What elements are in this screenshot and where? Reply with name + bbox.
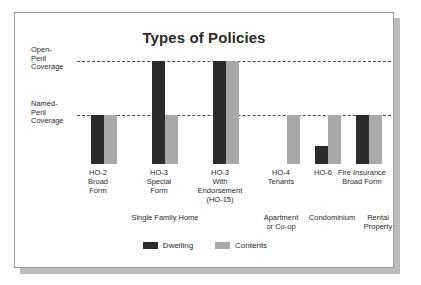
bar-dwelling-ho-3-endorsement bbox=[213, 61, 226, 164]
group-label-apartment-or-co-op-line2: or Co-op bbox=[252, 222, 310, 231]
chart-legend: Dwelling Contents bbox=[15, 241, 395, 250]
bar-contents-fire-insurance bbox=[369, 115, 382, 164]
category-label-ho-2-broad-form-line3: Form bbox=[73, 186, 123, 195]
category-label-ho-3-endorsement-line3: Endorsement bbox=[187, 186, 253, 195]
category-label-ho-3-special-form-line3: Form bbox=[134, 186, 184, 195]
legend-item-dwelling: Dwelling bbox=[143, 241, 193, 250]
chart-card: Types of Policies Open- Peril Coverage N… bbox=[14, 12, 394, 268]
group-label-rental-property-line1: Rental bbox=[354, 213, 402, 222]
category-label-ho-3-endorsement-line1: HO-3 bbox=[187, 168, 253, 177]
category-label-ho-2-broad-form-line1: HO-2 bbox=[73, 168, 123, 177]
category-label-ho-2-broad-form: HO-2BroadForm bbox=[73, 168, 123, 195]
legend-label-dwelling: Dwelling bbox=[163, 241, 193, 250]
legend-swatch-dwelling-icon bbox=[143, 242, 158, 249]
category-label-ho-3-special-form-line1: HO-3 bbox=[134, 168, 184, 177]
legend-swatch-contents-icon bbox=[215, 242, 230, 249]
category-label-ho-4-tenants-line2: Tenants bbox=[256, 177, 306, 186]
category-label-ho-3-endorsement-line4: (HO-15) bbox=[187, 195, 253, 204]
category-label-fire-insurance-line1: Fire Insurance bbox=[330, 168, 394, 177]
bar-dwelling-fire-insurance bbox=[356, 115, 369, 164]
bar-contents-ho-4-tenants bbox=[287, 115, 300, 164]
category-label-ho-3-special-form-line2: Special bbox=[134, 177, 184, 186]
category-label-fire-insurance: Fire InsuranceBroad Form bbox=[330, 168, 394, 186]
group-label-rental-property: RentalProperty bbox=[354, 213, 402, 231]
bars-layer bbox=[15, 13, 395, 269]
bar-contents-ho-6 bbox=[328, 115, 341, 164]
group-label-rental-property-line2: Property bbox=[354, 222, 402, 231]
bar-dwelling-ho-2-broad-form bbox=[91, 115, 104, 164]
bar-contents-ho-2-broad-form bbox=[104, 115, 117, 164]
category-label-ho-3-endorsement-line2: With bbox=[187, 177, 253, 186]
legend-item-contents: Contents bbox=[215, 241, 267, 250]
category-label-ho-3-endorsement: HO-3WithEndorsement(HO-15) bbox=[187, 168, 253, 204]
category-label-ho-2-broad-form-line2: Broad bbox=[73, 177, 123, 186]
bar-dwelling-ho-6 bbox=[315, 146, 328, 164]
category-label-fire-insurance-line2: Broad Form bbox=[330, 177, 394, 186]
legend-label-contents: Contents bbox=[235, 241, 267, 250]
plot-area: Open- Peril Coverage Named- Peril Covera… bbox=[15, 13, 395, 269]
category-label-ho-3-special-form: HO-3SpecialForm bbox=[134, 168, 184, 195]
bar-contents-ho-3-endorsement bbox=[226, 61, 239, 164]
bar-contents-ho-3-special-form bbox=[165, 115, 178, 164]
bar-dwelling-ho-3-special-form bbox=[152, 61, 165, 164]
group-label-single-family-home-line1: Single Family Home bbox=[81, 213, 249, 222]
group-label-single-family-home: Single Family Home bbox=[81, 213, 249, 222]
